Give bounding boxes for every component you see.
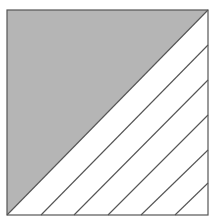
diagonal-strips-diagram — [0, 0, 211, 223]
strip-divider-line — [141, 150, 208, 215]
strip-divider-line — [175, 183, 208, 215]
